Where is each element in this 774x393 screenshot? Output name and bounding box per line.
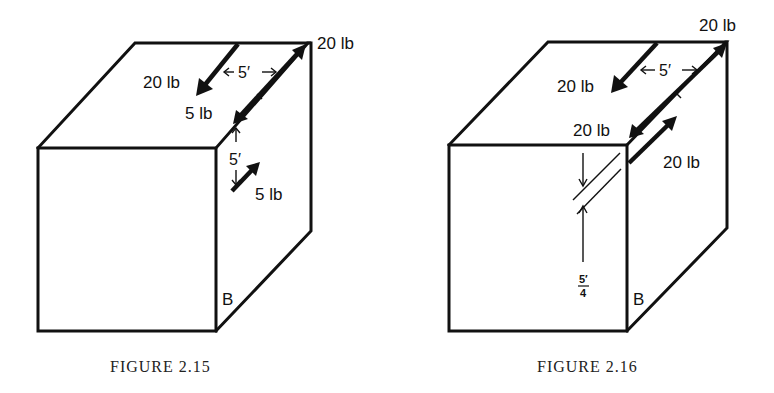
dimension-front-5ft-over-4: 5′ 4 [578, 153, 589, 299]
dimension-side-label: 5′ [229, 151, 241, 168]
corner-label-b: B [633, 290, 644, 309]
fraction-denominator: 4 [580, 287, 587, 299]
cube-top-face [38, 43, 308, 148]
force-label-top-arrow: 20 lb [143, 73, 180, 92]
figure-2-15: 5′ 5′ 20 lb 20 lb 5 lb 5 lb B FIGURE 2.1… [38, 34, 354, 375]
dimension-top-label: 5′ [659, 62, 671, 79]
figures-canvas: 5′ 5′ 20 lb 20 lb 5 lb 5 lb B FIGURE 2.1… [0, 0, 774, 393]
figure-2-16: 5′ 5′ 4 20 lb 20 lb 20 lb 20 lb B FIGURE… [449, 16, 736, 375]
dimension-side-5ft: 5′ [229, 128, 241, 185]
dimension-top-label: 5′ [238, 64, 250, 81]
force-arrow-top-20lb [196, 44, 238, 96]
cube-right-face [627, 42, 727, 331]
force-arrow-top-20lb [611, 43, 657, 93]
figure-caption: FIGURE 2.16 [537, 358, 638, 375]
dimension-top-5ft: 5′ [641, 62, 697, 79]
fraction-numerator: 5′ [579, 273, 588, 285]
dimension-top-5ft: 5′ [224, 64, 276, 81]
cube-front-face [38, 148, 216, 331]
corner-label-b: B [222, 290, 233, 309]
force-label-right-face: 5 lb [255, 185, 282, 204]
figure-caption: FIGURE 2.15 [110, 358, 211, 375]
force-label-top-right: 20 lb [699, 16, 736, 35]
force-label-top-arrow: 20 lb [557, 77, 594, 96]
force-arrow-edge [233, 44, 306, 124]
force-label-edge-lower: 20 lb [573, 121, 610, 140]
offset-lines [573, 153, 621, 214]
force-label-top-right: 20 lb [317, 34, 354, 53]
force-label-right-face: 20 lb [663, 153, 700, 172]
force-label-edge-lower: 5 lb [185, 104, 212, 123]
edge-midpoint-tick [676, 93, 681, 98]
